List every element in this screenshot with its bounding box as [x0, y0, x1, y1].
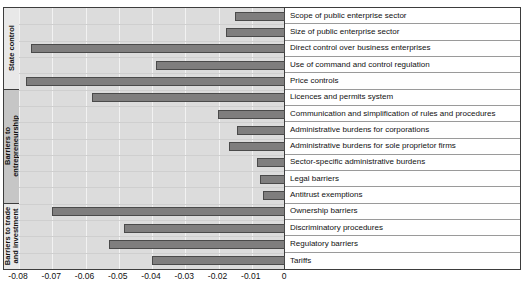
row-separator: [19, 90, 284, 91]
category-label: Communication and simplification of rule…: [285, 106, 520, 122]
bar: [218, 110, 285, 119]
group-label-column: State controlBarriers toentrepreneurship…: [4, 8, 19, 269]
category-label: Ownership barriers: [285, 204, 520, 220]
x-axis-tick-label: -0.02: [208, 271, 227, 281]
row-separator: [19, 139, 284, 140]
bar: [52, 207, 285, 216]
row-separator: [19, 155, 284, 156]
row-separator: [19, 73, 284, 74]
category-label: Administrative burdens for corporations: [285, 122, 520, 138]
row-separator: [19, 220, 284, 221]
x-axis-tick-label: -0.01: [241, 271, 260, 281]
bar: [109, 240, 285, 249]
x-axis-tick-label: -0.07: [42, 271, 61, 281]
bar: [26, 77, 285, 86]
bar: [152, 256, 285, 265]
row-separator: [19, 171, 284, 172]
chart-container: State controlBarriers toentrepreneurship…: [0, 0, 524, 290]
bar: [235, 12, 285, 21]
row-separator: [19, 106, 284, 107]
category-label: Tariffs: [285, 253, 520, 269]
x-axis-tick-label: -0.08: [8, 271, 27, 281]
category-label-column: Scope of public enterprise sectorSize of…: [285, 8, 520, 269]
group-band: State control: [4, 8, 19, 90]
bar: [31, 44, 285, 53]
bar: [92, 93, 285, 102]
category-label: Administrative burdens for sole propriet…: [285, 139, 520, 155]
plot-area: [19, 8, 285, 269]
row-separator: [19, 204, 284, 205]
bar: [124, 224, 285, 233]
group-label: Barriers to tradeand investment: [4, 207, 19, 265]
category-label: Price controls: [285, 73, 520, 89]
row-separator: [19, 187, 284, 188]
plot-frame: State controlBarriers toentrepreneurship…: [3, 7, 521, 270]
row-separator: [19, 122, 284, 123]
x-axis-tick-label: 0: [282, 271, 287, 281]
category-label: Legal barriers: [285, 171, 520, 187]
x-axis-tick-label: -0.06: [75, 271, 94, 281]
row-separator: [19, 24, 284, 25]
category-label: Sector-specific administrative burdens: [285, 155, 520, 171]
group-label: Barriers toentrepreneurship: [4, 115, 19, 177]
category-label: Scope of public enterprise sector: [285, 8, 520, 24]
bar: [257, 158, 285, 167]
category-label: Direct control over business enterprises: [285, 41, 520, 57]
bar: [226, 28, 285, 37]
group-band: Barriers to tradeand investment: [4, 204, 19, 269]
bar: [237, 126, 285, 135]
x-axis-tick-label: -0.05: [108, 271, 127, 281]
x-axis-tick-label: -0.03: [175, 271, 194, 281]
row-separator: [19, 57, 284, 58]
category-label: Discriminatory procedures: [285, 220, 520, 236]
group-band: Barriers toentrepreneurship: [4, 90, 19, 204]
bar: [260, 175, 285, 184]
x-axis: -0.08-0.07-0.06-0.05-0.04-0.03-0.02-0.01…: [18, 271, 521, 289]
category-label: Use of command and control regulation: [285, 57, 520, 73]
bar: [263, 191, 285, 200]
category-label: Antitrust exemptions: [285, 187, 520, 203]
category-label: Size of public enterprise sector: [285, 24, 520, 40]
row-separator: [19, 41, 284, 42]
group-label: State control: [8, 25, 16, 71]
row-separator: [19, 253, 284, 254]
x-axis-tick-label: -0.04: [141, 271, 160, 281]
chart-title-clipped: [0, 0, 524, 7]
category-label: Licences and permits system: [285, 90, 520, 106]
bar: [156, 61, 285, 70]
bar: [229, 142, 285, 151]
category-label: Regulatory barriers: [285, 236, 520, 252]
row-separator: [19, 236, 284, 237]
